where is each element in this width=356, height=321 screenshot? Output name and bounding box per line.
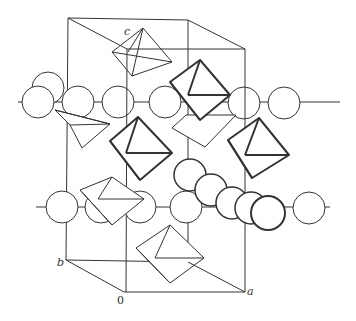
- axis-label-b: b: [57, 257, 64, 268]
- bold-octahedron-top: [170, 60, 230, 120]
- thin-octahedron-bottom: [136, 225, 204, 283]
- bold-octahedron-right: [228, 118, 289, 178]
- axis-label-origin: 0: [117, 295, 124, 306]
- thin-octahedron-mid-upper: [172, 115, 236, 147]
- crystal-structure-diagram: [0, 0, 356, 321]
- axis-label-c: c: [124, 26, 130, 37]
- thin-octahedron-top: [112, 28, 172, 76]
- axis-label-a: a: [247, 286, 254, 297]
- bold-octahedron-left: [110, 117, 172, 180]
- lower-sphere-row: [36, 191, 330, 224]
